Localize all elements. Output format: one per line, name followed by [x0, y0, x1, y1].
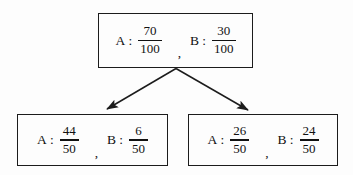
fraction-b-denominator: 100 — [212, 41, 236, 57]
colon-a: : — [217, 133, 227, 147]
fraction-a: 44 50 — [60, 124, 79, 156]
variable-label-a: A — [207, 133, 217, 147]
node-top-expression: A : 70 100 , B : 30 100 — [115, 24, 235, 56]
fraction-b: 24 50 — [300, 124, 319, 156]
node-bottom-left: A : 44 50 , B : 6 50 — [17, 114, 168, 166]
fraction-b-numerator: 6 — [133, 124, 144, 140]
variable-label-a: A — [115, 34, 125, 48]
colon-b: : — [116, 133, 126, 147]
colon-a: : — [47, 133, 57, 147]
term-separator: , — [176, 46, 183, 60]
node-bottom-right-term-a: A : 26 50 — [207, 124, 249, 156]
node-bottom-right-expression: A : 26 50 , B : 24 50 — [207, 124, 318, 156]
fraction-a-denominator: 50 — [231, 141, 248, 157]
term-separator: , — [93, 146, 100, 160]
fraction-a: 26 50 — [230, 124, 249, 156]
variable-label-a: A — [37, 133, 47, 147]
fraction-b-denominator: 50 — [130, 141, 147, 157]
colon-b: : — [287, 133, 297, 147]
node-top-term-a: A : 70 100 — [115, 24, 161, 56]
variable-label-b: B — [107, 133, 116, 147]
diagram-canvas: A : 70 100 , B : 30 100 — [0, 0, 353, 175]
fraction-b-numerator: 30 — [215, 24, 232, 40]
node-bottom-right: A : 26 50 , B : 24 50 — [188, 114, 338, 166]
fraction-a-numerator: 44 — [61, 124, 78, 140]
variable-label-b: B — [278, 133, 287, 147]
node-top: A : 70 100 , B : 30 100 — [98, 13, 253, 68]
node-bottom-left-expression: A : 44 50 , B : 6 50 — [37, 124, 148, 156]
variable-label-b: B — [190, 34, 199, 48]
edge-top-to-right — [176, 69, 248, 111]
fraction-a-denominator: 100 — [138, 41, 162, 57]
fraction-a-numerator: 70 — [141, 24, 158, 40]
fraction-b: 6 50 — [129, 124, 148, 156]
colon-a: : — [125, 34, 135, 48]
fraction-b: 30 100 — [212, 24, 236, 56]
fraction-a-denominator: 50 — [61, 141, 78, 157]
node-bottom-left-term-a: A : 44 50 — [37, 124, 79, 156]
node-bottom-left-term-b: B : 6 50 — [107, 124, 148, 156]
fraction-a-numerator: 26 — [231, 124, 248, 140]
edge-top-to-left — [107, 69, 176, 110]
node-bottom-right-term-b: B : 24 50 — [278, 124, 319, 156]
fraction-b-denominator: 50 — [301, 141, 318, 157]
node-top-term-b: B : 30 100 — [190, 24, 235, 56]
fraction-b-numerator: 24 — [301, 124, 318, 140]
term-separator: , — [263, 146, 270, 160]
colon-b: : — [199, 34, 209, 48]
fraction-a: 70 100 — [138, 24, 162, 56]
